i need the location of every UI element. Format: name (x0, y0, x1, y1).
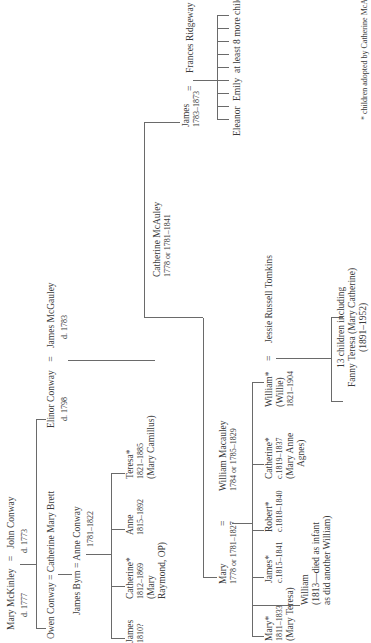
branch (252, 636, 264, 637)
dates: 1783–1873 (192, 91, 202, 127)
branch (217, 54, 229, 55)
owen-descent-line (58, 574, 72, 575)
person-jessie-russell-tomkins: Jessie Russell Tomkins (264, 255, 275, 343)
marriage-sign: = (6, 556, 16, 561)
name: Catherine* (125, 542, 136, 599)
marriage-sign: = (72, 563, 82, 568)
dates: 1784 or 1785–1829 (229, 420, 239, 491)
person-frances-ridgeway: Frances Ridgeway (185, 3, 196, 73)
byrn-child-catherine: Catherine* 1812–1869 (Mary Raymond, OP) (125, 542, 168, 599)
dates: c.1819–1837 (275, 433, 285, 479)
name: Catherine* (264, 433, 275, 479)
branch-mary (144, 317, 203, 318)
branch (217, 93, 229, 94)
branch (217, 15, 229, 16)
macauley-child-catherine: Catherine* c.1819–1837 (Mary Anne Agnes) (264, 433, 307, 479)
dates: 1810? (136, 620, 146, 643)
note-line: 13 children including (336, 268, 347, 387)
dates: 1812–1869 (136, 542, 146, 599)
dates: 1821–1885 (136, 415, 146, 479)
note-line: (1813—died as infant (311, 516, 322, 619)
person-james-byrn: James Byrn (72, 570, 82, 615)
macauley-children-bar (252, 382, 253, 637)
person-owen-conway: Owen Conway = Catherine Mary Brett (46, 491, 57, 639)
person-james: James 1783–1873 (181, 91, 202, 127)
infant-william-note: William (1813—died as infant as did anot… (300, 516, 333, 619)
james-marriage-stem (193, 80, 217, 81)
name: Anne (125, 499, 136, 535)
byrn-child-james: James 1810? (125, 620, 146, 643)
dates: 1811–1833 (275, 587, 285, 641)
branch (252, 464, 264, 465)
william-children-note: 13 children including Fanny Teresa (Mary… (336, 268, 369, 387)
person-mary: Mary 1778 or 1781–1827 (218, 521, 239, 584)
dates: c.1815–1841 (275, 541, 285, 583)
marriage-sign: = (185, 86, 196, 91)
byrn-child-teresa: Teresa* 1821–1885 (Mary Camillus) (125, 415, 157, 479)
byrn-couple: James Byrn = Anne Conway (72, 506, 83, 615)
marriage-sign: = (218, 521, 229, 526)
branch (217, 119, 229, 120)
byrn-children-bar (111, 473, 112, 639)
name: Mary* (264, 587, 275, 641)
child-emily: Emily (232, 78, 243, 101)
name: James (125, 620, 136, 643)
mcgauley-descent-line (68, 360, 155, 361)
religious-name: (Mary Camillus) (146, 415, 157, 479)
person-catherine-mary-brett: Catherine Mary Brett (46, 491, 56, 572)
dates: 1821–1904 (286, 371, 296, 407)
branch (331, 401, 343, 402)
branch (111, 638, 125, 639)
branch (217, 80, 229, 81)
william-marriage-stem (276, 358, 331, 359)
branch (217, 106, 229, 107)
mary-mckinley-dates: d. 1777 (20, 593, 30, 617)
name: Catherine McAuley (152, 202, 163, 277)
child-eleanor: Eleanor (232, 106, 243, 136)
branch (111, 473, 125, 474)
person-anne-conway: Anne Conway (72, 506, 82, 561)
mcgauley-dates: d. 1783 (60, 315, 70, 339)
macauley-child-mary: Mary* 1811–1833 (Mary Teresa) (264, 587, 296, 641)
name: William Macauley (218, 420, 229, 491)
name: James* (264, 541, 275, 583)
branch (217, 41, 229, 42)
nickname: (Willie) (275, 371, 286, 407)
name: Mary (218, 521, 229, 584)
name: Robert* (264, 490, 275, 532)
macauley-child-robert: Robert* c.1818–1840 (264, 490, 285, 532)
macauley-child-william: William* (Willie) 1821–1904 (264, 371, 296, 407)
marriage-sign: = (46, 575, 56, 580)
religious-name: Raymond, OP) (157, 542, 168, 599)
name: Teresa* (125, 415, 136, 479)
name: James (181, 91, 192, 127)
footnote: * children adopted by Catherine McAuley (360, 0, 370, 120)
branch-owen (36, 628, 46, 629)
dates: c.1818–1840 (275, 490, 285, 532)
person-john-conway: John Conway (6, 496, 16, 548)
branch-elinor (36, 419, 46, 420)
branch-james (144, 122, 180, 123)
mary-drop (203, 577, 217, 578)
dates: 1778 or 1781–1827 (229, 521, 239, 584)
branch (252, 577, 264, 578)
religious-name: (Mary (146, 542, 157, 599)
macauley-child-james: James* c.1815–1841 (264, 541, 285, 583)
branch (111, 586, 125, 587)
anne-conway-dates: 1781–1822 (86, 511, 96, 547)
conway-children-bar (36, 419, 37, 629)
person-elinor-conway: Elinor Conway = James McGauley (46, 282, 57, 428)
branch (252, 530, 264, 531)
name: Owen Conway (46, 582, 56, 639)
note-line: (1891–1952) (358, 268, 369, 387)
religious-name: (Mary Anne (285, 433, 296, 479)
name: William (300, 516, 311, 619)
byrn-child-anne: Anne 1815–1892 (125, 499, 146, 535)
macauley-marriage-stem (232, 523, 252, 524)
religious-name: Agnes) (296, 433, 307, 479)
branch (217, 28, 229, 29)
marriage-stem (20, 564, 36, 565)
mary-connector (203, 318, 204, 578)
branch (111, 529, 125, 530)
